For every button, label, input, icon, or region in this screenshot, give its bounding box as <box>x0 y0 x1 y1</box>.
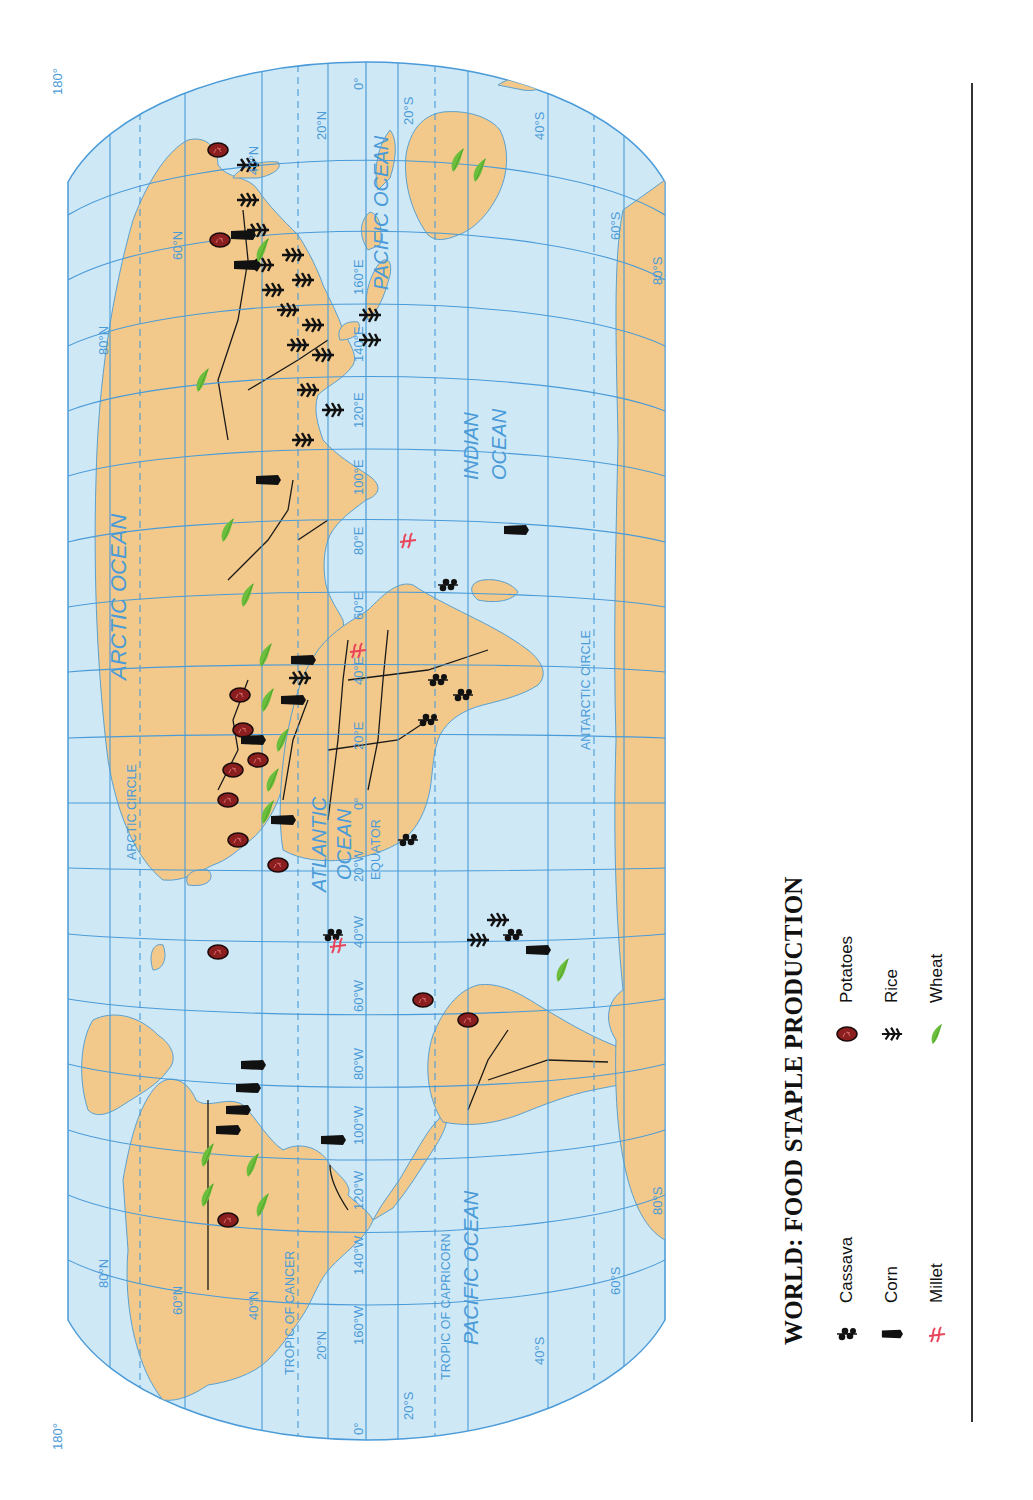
potato-icon <box>230 688 250 702</box>
svg-text:60°N: 60°N <box>170 1286 185 1315</box>
svg-text:140°E: 140°E <box>351 326 366 362</box>
potato-icon <box>210 233 230 247</box>
corn-icon <box>504 525 529 535</box>
label-equator: EQUATOR <box>369 819 383 880</box>
label-antarctic-circle: ANTARCTIC CIRCLE <box>579 630 593 750</box>
potato-icon <box>458 1013 478 1027</box>
corn-icon <box>241 1060 266 1070</box>
svg-text:100°W: 100°W <box>351 1105 366 1145</box>
label-180-west: 180° <box>50 1423 65 1450</box>
potato-icon <box>208 945 228 959</box>
svg-text:20°S: 20°S <box>401 1391 416 1420</box>
svg-text:80°N: 80°N <box>96 1259 111 1288</box>
svg-text:20°W: 20°W <box>351 849 366 882</box>
svg-text:140°W: 140°W <box>351 1235 366 1275</box>
svg-text:80°E: 80°E <box>351 526 366 555</box>
svg-text:20°N: 20°N <box>314 111 329 140</box>
svg-text:20°E: 20°E <box>351 721 366 750</box>
svg-text:80°N: 80°N <box>96 326 111 355</box>
svg-text:100°E: 100°E <box>351 459 366 495</box>
svg-text:40°W: 40°W <box>351 915 366 948</box>
lon-labels: 160°W 140°W 120°W 100°W 80°W 60°W 40°W 2… <box>351 259 366 1345</box>
svg-text:160°E: 160°E <box>351 259 366 295</box>
potato-icon <box>228 833 248 847</box>
potato-icon <box>248 753 268 767</box>
label-tropic-of-cancer: TROPIC OF CANCER <box>283 1251 297 1375</box>
corn-icon <box>236 1083 261 1093</box>
svg-text:40°E: 40°E <box>351 656 366 685</box>
corn-icon <box>256 475 281 485</box>
svg-text:60°S: 60°S <box>608 1266 623 1295</box>
potato-icon <box>268 858 288 872</box>
label-tropic-of-capricorn: TROPIC OF CAPRICORN <box>439 1233 453 1380</box>
svg-text:160°W: 160°W <box>351 1305 366 1345</box>
label-atlantic-ocean-1: ATLANTIC <box>308 796 330 893</box>
label-arctic-ocean: ARCTIC OCEAN <box>106 514 131 682</box>
svg-text:40°S: 40°S <box>532 111 547 140</box>
potato-icon <box>208 143 228 157</box>
svg-text:60°N: 60°N <box>170 231 185 260</box>
corn-icon <box>291 655 316 665</box>
corn-icon <box>271 815 296 825</box>
svg-text:40°N: 40°N <box>246 146 261 175</box>
label-pacific-ocean-west: PACIFIC OCEAN <box>460 1190 482 1345</box>
svg-text:80°S: 80°S <box>650 1186 665 1215</box>
label-indian-ocean-1: INDIAN <box>460 412 482 480</box>
corn-icon <box>216 1125 241 1135</box>
svg-text:80°W: 80°W <box>351 1047 366 1080</box>
corn-icon <box>226 1105 251 1115</box>
svg-text:120°E: 120°E <box>351 392 366 428</box>
corn-icon <box>321 1135 346 1145</box>
potato-icon <box>218 793 238 807</box>
svg-text:40°N: 40°N <box>246 1291 261 1320</box>
potato-icon <box>413 993 433 1007</box>
corn-icon <box>281 695 306 705</box>
label-indian-ocean-2: OCEAN <box>488 408 510 480</box>
label-180-east: 180° <box>50 68 65 95</box>
world-map: ARCTIC OCEAN ATLANTIC OCEAN PACIFIC OCEA… <box>0 0 1033 1500</box>
corn-icon <box>234 260 259 270</box>
label-pacific-ocean-east: PACIFIC OCEAN <box>370 135 392 290</box>
svg-text:60°W: 60°W <box>351 979 366 1012</box>
corn-icon <box>526 945 551 955</box>
page-rule <box>971 83 973 1422</box>
landmass-antarctica <box>609 180 665 1240</box>
potato-icon <box>218 1213 238 1227</box>
potato-icon <box>223 763 243 777</box>
svg-text:80°S: 80°S <box>650 256 665 285</box>
svg-text:40°S: 40°S <box>532 1336 547 1365</box>
corn-icon <box>231 230 256 240</box>
svg-text:0°: 0° <box>351 1423 366 1435</box>
corn-icon <box>241 735 266 745</box>
svg-text:20°S: 20°S <box>401 96 416 125</box>
svg-text:20°N: 20°N <box>314 1331 329 1360</box>
svg-text:0°: 0° <box>351 78 366 90</box>
svg-text:0°: 0° <box>351 798 366 810</box>
svg-text:120°W: 120°W <box>351 1170 366 1210</box>
map-frame: ARCTIC OCEAN ATLANTIC OCEAN PACIFIC OCEA… <box>50 62 665 1450</box>
svg-text:60°S: 60°S <box>608 211 623 240</box>
label-arctic-circle: ARCTIC CIRCLE <box>125 764 139 860</box>
potato-icon <box>233 723 253 737</box>
svg-text:60°E: 60°E <box>351 591 366 620</box>
